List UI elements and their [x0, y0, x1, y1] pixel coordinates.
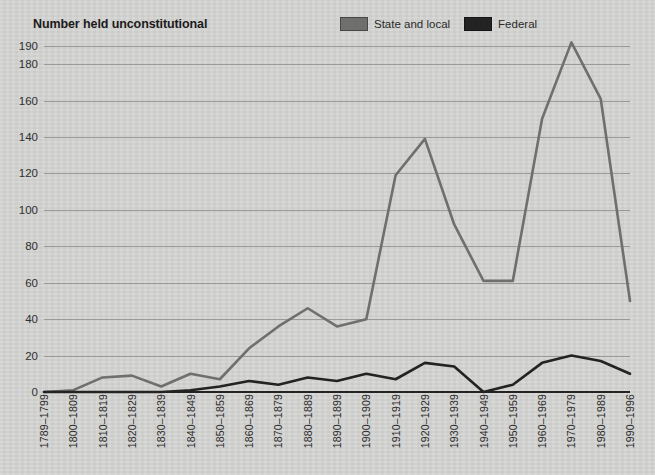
x-axis-tick-label: 1810–1819 [97, 394, 109, 448]
x-axis-tick-label: 1940–1949 [478, 394, 490, 448]
x-axis-tick-label: 1880–1889 [302, 394, 314, 448]
x-axis-tick-label: 1900–1909 [360, 394, 372, 448]
y-axis-tick-label: 20 [25, 350, 38, 362]
x-axis-tick-label: 1870–1879 [272, 394, 284, 448]
legend-label-state-and-local: State and local [374, 18, 450, 30]
x-axis-tick-label: 1789–1799 [38, 394, 50, 448]
x-axis-tick-label: 1910–1919 [390, 394, 402, 448]
series-line-state-and-local [44, 42, 630, 392]
legend-item-state-and-local[interactable]: State and local [340, 17, 450, 31]
chart-figure: Number held unconstitutional State and l… [0, 0, 655, 475]
y-axis-tick-label: 80 [25, 240, 38, 252]
y-axis-tick-label: 40 [25, 313, 38, 325]
y-axis-tick-label: 190 [19, 40, 38, 52]
series-lines [44, 46, 630, 392]
chart-title: Number held unconstitutional [33, 17, 207, 31]
y-axis-tick-label: 160 [19, 95, 38, 107]
x-axis-tick-label: 1800–1809 [67, 394, 79, 448]
y-axis-tick-label: 140 [19, 131, 38, 143]
y-axis-tick-label: 180 [19, 58, 38, 70]
legend-swatch-state-and-local [340, 17, 368, 31]
series-line-federal [44, 356, 630, 392]
x-axis-tick-label: 1850–1859 [214, 394, 226, 448]
x-axis-tick-label: 1830–1839 [155, 394, 167, 448]
x-axis-tick-label: 1920–1929 [419, 394, 431, 448]
x-axis-tick-label: 1890–1899 [331, 394, 343, 448]
x-axis-tick-label: 1930–1939 [448, 394, 460, 448]
x-axis-tick-label: 1980–1989 [595, 394, 607, 448]
x-axis-tick-label: 1820–1829 [126, 394, 138, 448]
legend-swatch-federal [464, 17, 492, 31]
x-axis-labels: 1789–17991800–18091810–18191820–18291830… [44, 394, 630, 466]
x-axis-tick-label: 1840–1849 [185, 394, 197, 448]
y-axis-tick-label: 120 [19, 167, 38, 179]
x-axis-tick-label: 1950–1959 [507, 394, 519, 448]
x-axis-tick-label: 1990–1996 [624, 394, 636, 448]
x-axis-tick-label: 1860–1869 [243, 394, 255, 448]
chart-legend: State and local Federal [340, 17, 537, 31]
x-axis-tick-label: 1960–1969 [536, 394, 548, 448]
x-axis-tick-label: 1970–1979 [565, 394, 577, 448]
legend-label-federal: Federal [498, 18, 537, 30]
plot-area: 020406080100120140160180190 [44, 46, 630, 392]
y-axis-tick-label: 100 [19, 204, 38, 216]
legend-item-federal[interactable]: Federal [464, 17, 537, 31]
y-axis-tick-label: 60 [25, 277, 38, 289]
